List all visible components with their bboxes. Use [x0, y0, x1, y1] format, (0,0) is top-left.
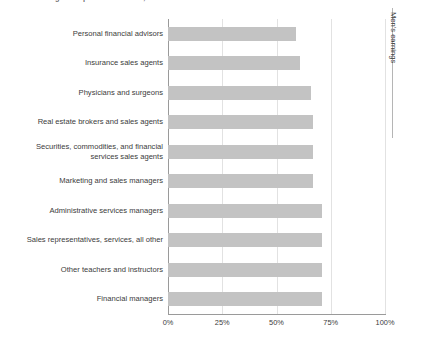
x-tick-label: 25%	[215, 318, 230, 327]
bar-fill	[168, 233, 322, 247]
category-axis-labels: Personal financial advisorsInsurance sal…	[0, 0, 164, 355]
gridline-75	[331, 19, 332, 315]
category-label: Other teachers and instructors	[0, 265, 163, 275]
bar-fill	[168, 145, 313, 159]
category-label: Administrative services managers	[0, 206, 163, 216]
category-label: Insurance sales agents	[0, 58, 163, 68]
legend-label: Men's earnings	[389, 12, 398, 63]
bar-fill	[168, 27, 296, 41]
bar	[168, 27, 296, 41]
bar-fill	[168, 56, 300, 70]
bar-fill	[168, 174, 313, 188]
legend: Men's earnings	[392, 8, 420, 138]
x-tick-label: 75%	[323, 318, 338, 327]
bar	[168, 292, 322, 306]
bar-fill	[168, 115, 313, 129]
category-label: Sales representatives, services, all oth…	[0, 235, 163, 245]
x-tick-label: 0%	[163, 318, 174, 327]
category-label: Personal financial advisors	[0, 29, 163, 39]
category-label: Securities, commodities, and financial s…	[0, 142, 163, 161]
category-label: Real estate brokers and sales agents	[0, 117, 163, 127]
x-tick-label: 50%	[269, 318, 284, 327]
bar-fill	[168, 204, 322, 218]
category-label: Financial managers	[0, 294, 163, 304]
category-label: Physicians and surgeons	[0, 88, 163, 98]
bar	[168, 204, 322, 218]
bar	[168, 145, 313, 159]
bar	[168, 174, 313, 188]
gridline-100	[385, 19, 386, 315]
bar-fill	[168, 86, 311, 100]
category-label: Marketing and sales managers	[0, 176, 163, 186]
bar	[168, 115, 313, 129]
bar-fill	[168, 292, 322, 306]
bar	[168, 263, 322, 277]
bar	[168, 86, 311, 100]
x-tick-label: 100%	[376, 318, 395, 327]
bar-chart: Personal financial advisorsInsurance sal…	[0, 0, 421, 355]
bar-fill	[168, 263, 322, 277]
bar	[168, 56, 300, 70]
x-axis-line	[168, 314, 386, 315]
plot-area	[168, 19, 385, 315]
bar	[168, 233, 322, 247]
